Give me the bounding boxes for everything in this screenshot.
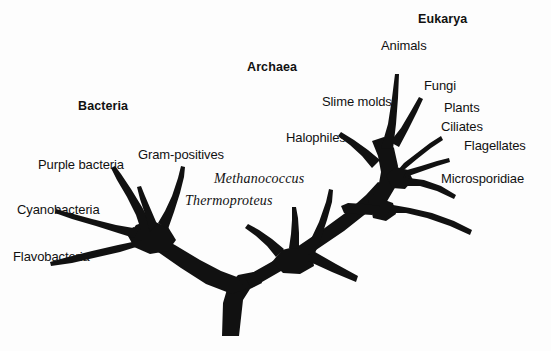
taxon-label-microsporidiae: Microsporidiae — [441, 172, 524, 185]
branch-thermoproteus — [245, 224, 284, 257]
taxon-label-methanococcus: Methanococcus — [214, 172, 304, 186]
domain-label-bacteria: Bacteria — [78, 100, 128, 113]
taxon-label-cyanobacteria: Cyanobacteria — [17, 203, 100, 216]
taxon-label-animals: Animals — [381, 39, 427, 52]
taxon-label-slime-molds: Slime molds — [322, 95, 392, 108]
taxon-label-ciliates: Ciliates — [441, 120, 483, 133]
taxon-label-gram-positives: Gram-positives — [138, 148, 224, 161]
branch-methanococcus — [289, 207, 299, 249]
phylogenetic-tree-figure: Bacteria Archaea Eukarya Purple bacteria… — [0, 0, 551, 351]
domain-label-archaea: Archaea — [247, 61, 297, 74]
archaea-stem-link — [308, 252, 358, 282]
taxon-label-thermoproteus: Thermoproteus — [185, 194, 273, 208]
taxon-label-plants: Plants — [444, 101, 480, 114]
taxon-label-purple-bacteria: Purple bacteria — [38, 158, 124, 171]
taxon-label-halophiles: Halophiles — [286, 131, 346, 144]
taxon-label-flavobacteria: Flavobacteria — [13, 250, 90, 263]
branch-microsporidiae — [388, 205, 472, 235]
taxon-label-fungi: Fungi — [424, 79, 456, 92]
branch-gram-positives — [158, 166, 185, 229]
domain-label-eukarya: Eukarya — [418, 13, 467, 26]
taxon-label-flagellates: Flagellates — [464, 139, 526, 152]
